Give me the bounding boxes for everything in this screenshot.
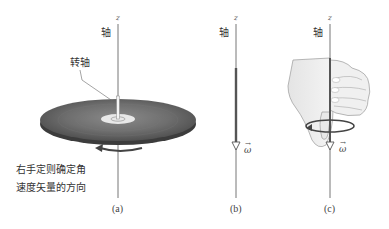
omega-vector-label-b: → ω <box>244 146 251 155</box>
axis-label-c: 轴 <box>313 28 323 38</box>
vector-arrowhead <box>326 142 334 150</box>
right-hand-rule-note: 右手定则确定角 速度矢量的方向 <box>16 161 86 197</box>
z-axis-label-b: z <box>234 15 238 22</box>
angular-velocity-right-hand-rule-figure: z 轴 转轴 右手定则确定角 速度矢量的方向 (a) z 轴 → ω (b) z… <box>0 0 389 229</box>
vector-arrow-icon: → <box>340 140 346 147</box>
vector-arrowhead <box>232 142 240 150</box>
axis-label-a: 轴 <box>101 28 111 38</box>
spindle-label: 转轴 <box>70 58 90 68</box>
caption-b: (b) <box>230 204 242 214</box>
panel-c-graphic <box>288 24 370 198</box>
spindle-leader-line <box>80 70 114 102</box>
panel-b-graphic <box>232 24 240 198</box>
rotation-arrow-path <box>100 148 142 151</box>
omega-vector-label-c: → ω <box>339 145 346 154</box>
caption-a: (a) <box>112 204 123 214</box>
z-axis-label-c: z <box>328 15 332 22</box>
rotation-arrowhead <box>95 144 103 152</box>
vector-arrow-icon: → <box>245 141 251 148</box>
axis-label-b: 轴 <box>219 28 229 38</box>
z-axis-label-a: z <box>116 15 120 22</box>
caption-c: (c) <box>324 204 335 214</box>
spindle <box>117 96 120 119</box>
note-line-1: 右手定则确定角 <box>16 161 86 179</box>
note-line-2: 速度矢量的方向 <box>16 179 86 197</box>
